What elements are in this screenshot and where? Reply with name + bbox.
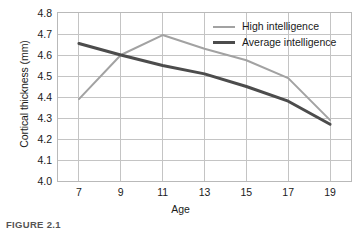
y-tick-label: 4.3	[24, 113, 52, 123]
figure-container: Cortical thickness (mm) 4.04.14.24.34.44…	[0, 0, 361, 229]
x-tick-label: 15	[231, 186, 261, 198]
y-tick-label: 4.2	[24, 134, 52, 144]
chart-legend: High intelligence Average intelligence	[213, 20, 336, 52]
legend-item-label: Average intelligence	[242, 36, 336, 49]
y-tick-label: 4.4	[24, 92, 52, 102]
legend-item-average-intelligence: Average intelligence	[213, 36, 336, 49]
y-tick-label: 4.8	[24, 8, 52, 18]
x-axis-tick-labels: 791113151719	[0, 186, 361, 200]
legend-line-swatch-icon	[213, 41, 235, 44]
legend-line-swatch-icon	[213, 26, 235, 28]
legend-item-label: High intelligence	[242, 20, 319, 33]
x-tick-label: 13	[190, 186, 220, 198]
x-axis-title: Age	[0, 203, 361, 215]
y-tick-label: 4.7	[24, 29, 52, 39]
x-tick-label: 19	[315, 186, 345, 198]
y-tick-label: 4.0	[24, 176, 52, 186]
y-tick-label: 4.1	[24, 155, 52, 165]
y-tick-label: 4.5	[24, 71, 52, 81]
x-tick-label: 11	[148, 186, 178, 198]
x-tick-label: 17	[273, 186, 303, 198]
legend-item-high-intelligence: High intelligence	[213, 20, 336, 33]
figure-caption: FIGURE 2.1	[6, 219, 61, 229]
x-tick-label: 9	[106, 186, 136, 198]
y-tick-label: 4.6	[24, 50, 52, 60]
x-tick-label: 7	[64, 186, 94, 198]
